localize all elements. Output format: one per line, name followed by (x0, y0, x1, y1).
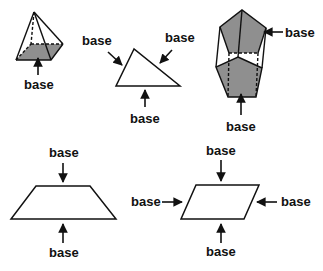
pyramid-base-label: base (24, 77, 54, 92)
triangle-right-label: base (165, 30, 195, 45)
triangle-left-arrow (108, 52, 122, 65)
trapezoid-bottom-label: base (49, 245, 79, 260)
trapezoid: base base (11, 145, 116, 260)
parallelogram-shape (181, 185, 259, 219)
prism-bottom-label: base (226, 119, 256, 134)
prism-top-label: base (285, 25, 315, 40)
triangle-left-label: base (82, 33, 112, 48)
parallelogram-bottom-label: base (206, 244, 236, 259)
parallelogram-right-label: base (281, 194, 311, 209)
trapezoid-shape (11, 186, 116, 219)
bases-diagram: base base base base base base base base (0, 0, 323, 271)
pentagonal-prism: base base (216, 10, 315, 134)
parallelogram: base base base base (131, 143, 311, 259)
prism-bottom-base (216, 57, 262, 97)
trapezoid-top-label: base (49, 145, 79, 160)
triangle-right-arrow (160, 50, 172, 63)
triangle: base base base (82, 30, 195, 126)
triangle-bottom-label: base (130, 111, 160, 126)
triangle-shape (116, 49, 180, 86)
parallelogram-left-label: base (131, 194, 161, 209)
square-pyramid: base (16, 12, 63, 92)
parallelogram-top-label: base (206, 143, 236, 158)
